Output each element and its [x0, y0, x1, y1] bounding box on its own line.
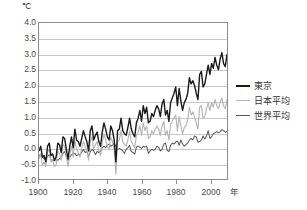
x-axis-tick-label: 2000 [191, 188, 231, 197]
y-axis-tick-label: 3.0 [6, 50, 36, 59]
legend-swatch-icon [236, 100, 250, 101]
x-axis-tick-label: 1980 [156, 188, 196, 197]
y-axis-tick-label: 2.5 [6, 65, 36, 74]
legend-swatch-icon [236, 115, 250, 116]
x-axis-tick-mark [142, 180, 143, 184]
legend-label: 世界平均 [254, 111, 290, 121]
x-axis-tick-mark [211, 180, 212, 184]
x-axis-tick-mark [176, 180, 177, 184]
series-lines [39, 23, 227, 179]
legend-label: 日本平均 [254, 96, 290, 106]
y-axis-tick-label: -1.0 [6, 176, 36, 185]
legend-item-0: 東京 [236, 78, 306, 93]
legend-label: 東京 [254, 81, 272, 91]
y-axis-tick-label: 0.0 [6, 144, 36, 153]
x-axis-tick-mark [107, 180, 108, 184]
y-axis-tick-label: 3.5 [6, 34, 36, 43]
x-axis-tick-label: 1940 [87, 188, 127, 197]
legend-swatch-icon [236, 85, 250, 87]
legend-item-2: 世界平均 [236, 108, 306, 123]
x-axis-unit-label: 年 [230, 188, 239, 197]
y-axis-tick-label: 0.5 [6, 129, 36, 138]
y-axis-tick-label: -0.5 [6, 160, 36, 169]
series-line [39, 98, 227, 174]
x-axis-tick-label: 1900 [18, 188, 58, 197]
y-axis-tick-label: 1.5 [6, 97, 36, 106]
y-axis-unit-label: ℃ [22, 2, 31, 12]
x-axis-tick-mark [73, 180, 74, 184]
temperature-anomaly-chart: ℃ 4.03.53.02.52.01.51.00.50.0-0.5-1.0 19… [0, 0, 307, 210]
chart-legend: 東京日本平均世界平均 [236, 78, 306, 123]
y-axis-tick-label: 1.0 [6, 113, 36, 122]
y-axis-tick-label: 4.0 [6, 18, 36, 27]
y-axis-tick-label: 2.0 [6, 81, 36, 90]
x-axis-tick-mark [38, 180, 39, 184]
plot-area [38, 22, 228, 180]
legend-item-1: 日本平均 [236, 93, 306, 108]
